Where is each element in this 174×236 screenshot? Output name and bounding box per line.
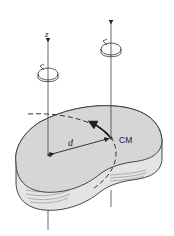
z-axis-point (47, 153, 50, 156)
rigid-body (16, 106, 162, 211)
parallel-axis-diagram: z d CM (0, 0, 174, 236)
z-axis-label: z (44, 29, 49, 39)
cm-label: CM (119, 135, 132, 145)
body-top-face (16, 106, 162, 193)
cm-point (109, 136, 112, 139)
